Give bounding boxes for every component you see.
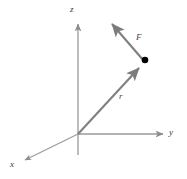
vector-diagram-figure: z y x F r	[0, 0, 187, 179]
position-vector-r-label: r	[119, 92, 123, 101]
force-vector-F-line	[112, 24, 144, 61]
force-vector-F-label: F	[136, 33, 142, 42]
x-axis-line	[25, 134, 78, 160]
application-point-dot	[142, 57, 149, 64]
z-axis-label: z	[70, 5, 74, 14]
y-axis-label: y	[169, 128, 173, 137]
x-axis-label: x	[10, 160, 14, 169]
position-vector-r-line	[78, 68, 139, 134]
vector-diagram-canvas	[0, 0, 187, 179]
